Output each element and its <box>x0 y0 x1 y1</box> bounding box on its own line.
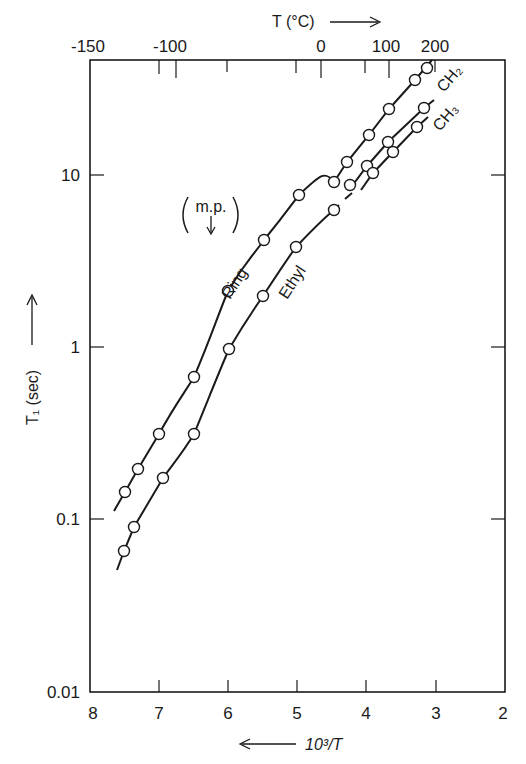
ch3-label: CH₃ <box>429 100 461 134</box>
svg-text:10³/T: 10³/T <box>305 736 344 753</box>
y-tick-1: 1 <box>71 338 80 357</box>
svg-text:m.p.: m.p. <box>195 198 226 215</box>
ch3-points <box>368 122 423 179</box>
top-axis-title: T (°C) <box>272 13 380 30</box>
svg-text:T₁ (sec): T₁ (sec) <box>24 370 41 425</box>
t1-relaxation-chart: 8 7 6 5 4 3 2 10³/T -150 -100 0 100 200 … <box>0 0 526 764</box>
mp-annotation: m.p. <box>183 197 238 234</box>
top-tick-labels: -150 -100 0 100 200 <box>71 37 449 56</box>
svg-text:T (°C): T (°C) <box>272 13 315 30</box>
top-tick-minus100: -100 <box>153 37 187 56</box>
ring-label: Ring <box>218 265 250 302</box>
ethyl-points <box>119 205 340 557</box>
x-tick-6: 6 <box>223 704 232 723</box>
top-ticks <box>159 60 435 78</box>
x-tick-4: 4 <box>361 704 370 723</box>
x-tick-3: 3 <box>431 704 440 723</box>
ring-points <box>120 63 433 498</box>
ethyl-dash <box>345 193 352 199</box>
top-tick-200: 200 <box>421 37 449 56</box>
bottom-tick-labels: 8 7 6 5 4 3 2 <box>88 704 507 723</box>
y-axis-title: T₁ (sec) <box>24 295 41 425</box>
data-points <box>119 63 433 557</box>
y-tick-0.1: 0.1 <box>56 510 80 529</box>
x-tick-7: 7 <box>154 704 163 723</box>
bottom-axis-title: 10³/T <box>240 736 344 753</box>
top-tick-0: 0 <box>316 37 325 56</box>
y-tick-0.01: 0.01 <box>47 683 80 702</box>
x-tick-8: 8 <box>88 704 97 723</box>
ethyl-curve <box>117 205 339 570</box>
top-tick-100: 100 <box>372 37 400 56</box>
y-tick-labels: 0.01 0.1 1 10 <box>47 166 80 702</box>
x-tick-2: 2 <box>498 704 507 723</box>
bottom-ticks <box>159 680 436 692</box>
plot-frame <box>90 60 505 692</box>
top-tick-minus150: -150 <box>71 37 105 56</box>
ring-curve <box>114 60 432 511</box>
y-tick-10: 10 <box>61 166 80 185</box>
y-ticks <box>90 175 505 519</box>
ch2-label: CH₂ <box>433 62 465 95</box>
x-tick-5: 5 <box>292 704 301 723</box>
